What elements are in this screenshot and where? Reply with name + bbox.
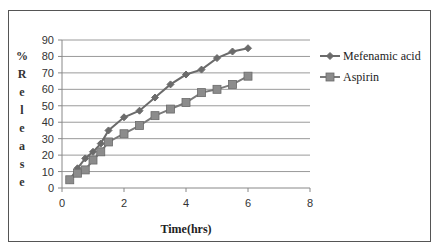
y-tick-label: 0 [48, 182, 54, 194]
square-marker [244, 72, 252, 80]
diamond-marker [229, 48, 236, 55]
y-label-char: l [20, 103, 24, 117]
x-tick-label: 8 [307, 197, 313, 209]
x-tick-label: 2 [121, 197, 127, 209]
y-tick-label: 10 [42, 166, 54, 178]
x-tick-label: 6 [245, 197, 251, 209]
y-label-char: R [18, 67, 27, 81]
x-tick-label: 0 [59, 197, 65, 209]
y-label-char: e [19, 175, 25, 189]
square-marker [167, 105, 175, 113]
legend-label: Mefenamic acid [343, 49, 421, 63]
y-tick-label: 30 [42, 133, 54, 145]
legend-item: Aspirin [320, 70, 379, 84]
y-tick-label: 80 [42, 50, 54, 62]
square-marker [105, 138, 113, 146]
x-tick-label: 4 [183, 197, 189, 209]
legend: Mefenamic acidAspirin [320, 49, 421, 84]
square-marker [229, 80, 237, 88]
square-marker [326, 73, 334, 81]
y-tick-label: 90 [42, 34, 54, 46]
y-label-char: % [16, 49, 28, 63]
square-marker [89, 156, 97, 164]
line-chart: 0102030405060708090 02468 %Release Time(… [0, 0, 439, 250]
x-axis-label: Time(hrs) [160, 222, 211, 236]
diamond-marker [245, 45, 252, 52]
square-marker [120, 130, 128, 138]
y-label-char: e [19, 121, 25, 135]
square-marker [198, 89, 206, 97]
diamond-marker [327, 53, 334, 60]
square-marker [182, 98, 190, 106]
y-label-char: e [19, 85, 25, 99]
legend-item: Mefenamic acid [320, 49, 421, 63]
square-marker [81, 166, 89, 174]
y-tick-label: 60 [42, 83, 54, 95]
square-marker [151, 112, 159, 120]
legend-label: Aspirin [343, 70, 379, 84]
square-marker [74, 169, 82, 177]
y-axis-label: %Release [16, 49, 28, 189]
y-tick-label: 40 [42, 116, 54, 128]
y-tick-label: 20 [42, 149, 54, 161]
square-marker [136, 122, 144, 130]
axes [62, 40, 310, 188]
y-axis-ticks: 0102030405060708090 [42, 34, 62, 194]
y-tick-label: 50 [42, 100, 54, 112]
square-marker [97, 148, 105, 156]
square-marker [213, 85, 221, 93]
square-marker [66, 176, 74, 184]
y-tick-label: 70 [42, 67, 54, 79]
y-label-char: s [20, 157, 25, 171]
x-axis-ticks: 02468 [59, 188, 313, 209]
data-series [66, 45, 252, 184]
y-label-char: a [19, 139, 25, 153]
